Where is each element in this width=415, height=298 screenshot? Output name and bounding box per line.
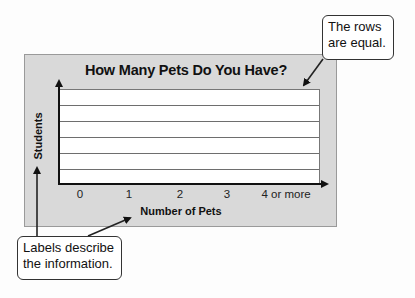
callout-text-line: The rows [328,19,388,35]
labels-describe-callout: Labels describe the information. [17,236,122,280]
callout-text-line: are equal. [328,35,388,51]
callout-text-line: the information. [23,256,116,272]
labels-callout-arrow-diagonal [88,218,130,236]
callout-text-line: Labels describe [23,240,116,256]
rows-callout-arrow [304,59,323,85]
rows-equal-callout: The rows are equal. [322,15,394,60]
